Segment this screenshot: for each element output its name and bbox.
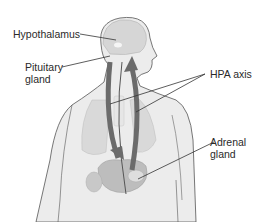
label-hypothalamus: Hypothalamus [13, 28, 80, 40]
label-pituitary-gland: Pituitary gland [25, 61, 63, 85]
label-adrenal-gland: Adrenal gland [210, 136, 246, 160]
hypothalamus-marker [114, 43, 122, 48]
label-hpa-axis: HPA axis [210, 68, 252, 80]
brain [103, 20, 146, 55]
